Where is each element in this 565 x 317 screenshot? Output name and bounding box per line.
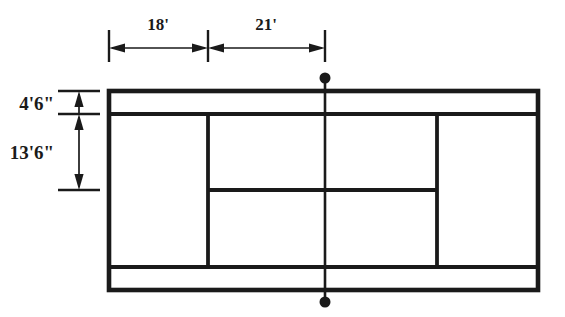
net-post-dot-top xyxy=(320,73,331,84)
horizontal-dimension-group: 18' 21' xyxy=(109,15,325,62)
dimension-arrow-21ft xyxy=(208,43,325,52)
arrowhead-down-13ft6in xyxy=(74,174,83,190)
vertical-dimension-group: 4'6" 13'6" xyxy=(10,91,100,190)
dimension-label-13ft6in: 13'6" xyxy=(10,142,54,163)
dimension-label-4ft6in: 4'6" xyxy=(19,93,54,114)
arrowhead-right-18ft xyxy=(192,43,208,52)
court-lines-group xyxy=(109,91,538,290)
arrowhead-up-4ft6in xyxy=(74,91,83,107)
dimension-arrow-13ft6in xyxy=(74,114,83,190)
tennis-court-diagram: 18' 21' 4'6" xyxy=(0,0,565,317)
court-drawing-canvas: 18' 21' 4'6" xyxy=(0,0,565,317)
dimension-label-18ft: 18' xyxy=(147,15,169,34)
arrowhead-left-21ft xyxy=(208,43,224,52)
dimension-arrow-4ft6in xyxy=(74,91,83,113)
arrowhead-left-18ft xyxy=(109,43,125,52)
dimension-arrow-18ft xyxy=(109,43,208,52)
dimension-label-21ft: 21' xyxy=(255,15,277,34)
net-post-dot-bottom xyxy=(320,297,331,308)
arrowhead-up-13ft6in xyxy=(74,114,83,130)
arrowhead-right-21ft xyxy=(309,43,325,52)
